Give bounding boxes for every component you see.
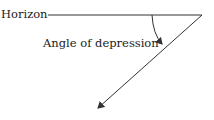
line-of-sight-arrow [98,15,202,108]
angle-arc-arrow [152,15,162,44]
angle-of-depression-diagram [0,0,214,120]
